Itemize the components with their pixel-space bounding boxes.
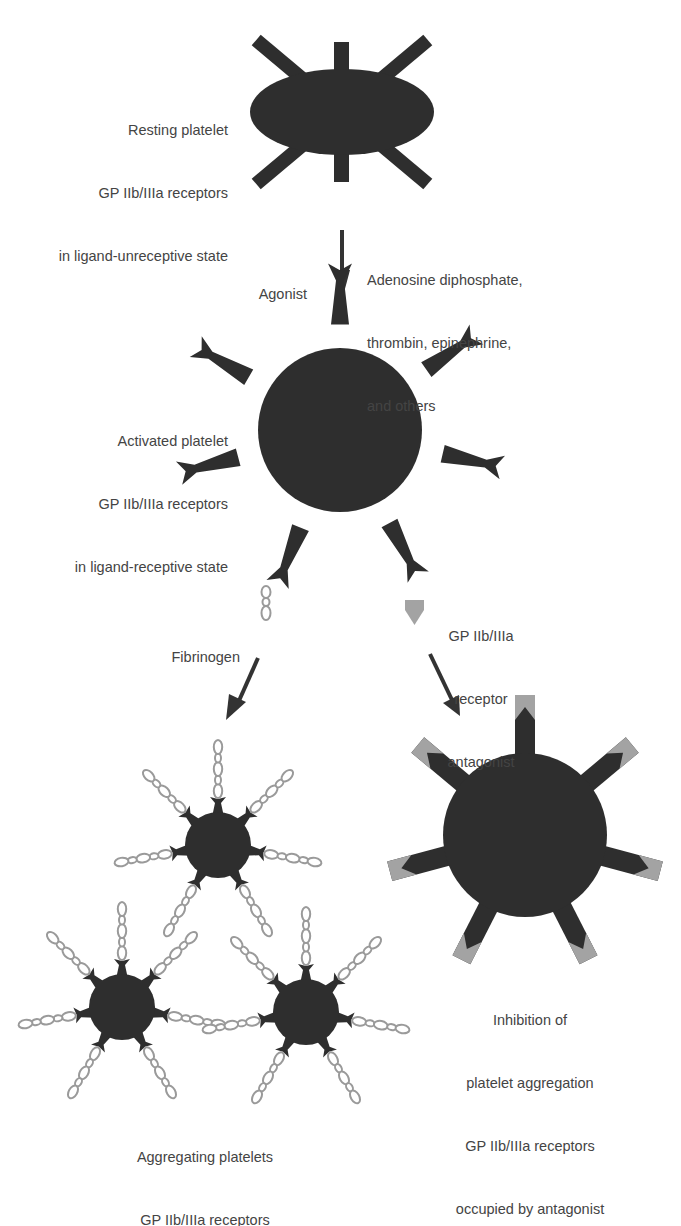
label-line: in ligand-unreceptive state: [59, 246, 228, 267]
resting-platelet-label: Resting platelet GP IIb/IIIa receptors i…: [59, 78, 228, 309]
label-line: Agonist: [259, 284, 307, 305]
label-line: Inhibition of: [440, 1010, 620, 1031]
label-line: occupied by antagonist: [440, 1199, 620, 1220]
agonist-examples-label: Adenosine diphosphate, thrombin, epineph…: [367, 228, 523, 459]
label-line: GP IIb/IIIa: [436, 626, 526, 647]
label-line: antagonist: [436, 752, 526, 773]
platelet-aggregation-diagram: Resting platelet GP IIb/IIIa receptors i…: [0, 0, 681, 1226]
inhibition-label: Inhibition of platelet aggregation GP II…: [440, 968, 620, 1226]
label-line: GP IIb/IIIa receptors: [100, 1210, 310, 1226]
label-line: thrombin, epinephrine,: [367, 333, 523, 354]
fibrinogen-label: Fibrinogen: [171, 605, 240, 710]
aggregating-platelets-label: Aggregating platelets GP IIb/IIIa recept…: [100, 1105, 310, 1226]
antagonist-wedge-icon: [405, 600, 424, 625]
label-line: GP IIb/IIIa receptors: [440, 1136, 620, 1157]
label-line: Aggregating platelets: [100, 1147, 310, 1168]
label-line: Adenosine diphosphate,: [367, 270, 523, 291]
label-line: GP IIb/IIIa receptors: [59, 183, 228, 204]
label-line: platelet aggregation: [440, 1073, 620, 1094]
label-line: Activated platelet: [75, 431, 228, 452]
aggregating-platelets-icon: [17, 740, 411, 1107]
resting-platelet-icon: [250, 35, 434, 190]
fibrinogen-chain-icon: [262, 586, 271, 620]
label-line: Fibrinogen: [171, 647, 240, 668]
antagonist-label: GP IIb/IIIa receptor antagonist: [436, 584, 526, 815]
activated-platelet-label: Activated platelet GP IIb/IIIa receptors…: [75, 389, 228, 620]
label-line: Resting platelet: [59, 120, 228, 141]
agonist-label: Agonist: [259, 242, 307, 347]
label-line: and others: [367, 396, 523, 417]
label-line: in ligand-receptive state: [75, 557, 228, 578]
label-line: GP IIb/IIIa receptors: [75, 494, 228, 515]
label-line: receptor: [436, 689, 526, 710]
